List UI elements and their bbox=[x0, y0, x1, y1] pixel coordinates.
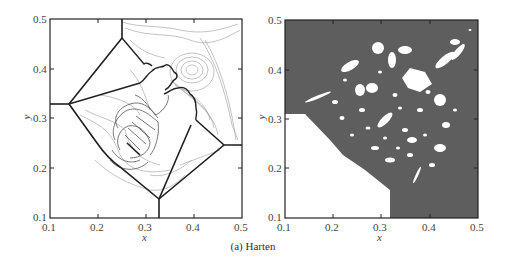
left-xtick-0.2: 0.2 bbox=[90, 222, 104, 233]
left-ylabel: y bbox=[20, 115, 32, 120]
right-xtick-0.1: 0.1 bbox=[277, 222, 291, 233]
figure: 0.5 0.4 0.3 0.2 0.1 y 0.1 0.2 0.3 0.4 0.… bbox=[0, 0, 506, 271]
left-ytick-0.5: 0.5 bbox=[33, 14, 47, 25]
right-ytick-0.3: 0.3 bbox=[268, 114, 282, 125]
right-ytick-0.5: 0.5 bbox=[268, 15, 282, 26]
right-xtick-0.2: 0.2 bbox=[325, 222, 339, 233]
left-xtick-0.5: 0.5 bbox=[234, 222, 248, 233]
left-contour-plot bbox=[50, 19, 242, 218]
right-xtick-0.5: 0.5 bbox=[470, 222, 484, 233]
right-ylabel: y bbox=[255, 115, 267, 120]
right-ytick-0.2: 0.2 bbox=[268, 163, 282, 174]
right-ytick-0.4: 0.4 bbox=[268, 65, 282, 76]
left-xtick-0.1: 0.1 bbox=[42, 222, 56, 233]
figure-caption: (a) Harten bbox=[0, 240, 506, 252]
right-binary-plot bbox=[285, 20, 478, 218]
left-ytick-0.4: 0.4 bbox=[33, 64, 47, 75]
left-xtick-0.4: 0.4 bbox=[186, 222, 200, 233]
left-ytick-0.3: 0.3 bbox=[33, 113, 47, 124]
left-ytick-0.2: 0.2 bbox=[33, 163, 47, 174]
right-xtick-0.4: 0.4 bbox=[422, 222, 436, 233]
